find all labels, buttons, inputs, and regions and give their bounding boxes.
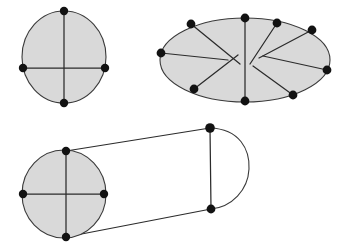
cylinder-cap-vertex-bottom [207,205,216,214]
cylinder-cap-spine [210,128,211,209]
ellipse-vertex-lower-left [190,85,199,94]
panel-ellipse-with-spokes [157,14,332,106]
cylinder-face-vertex-bottom [62,233,70,241]
circle-vertex-top [60,7,68,15]
ellipse-vertex-upper-left [187,20,196,29]
circle-vertex-bottom [60,99,68,107]
ellipse-vertex-bottom-center [241,97,250,106]
cylinder-face-vertex-right [100,190,108,198]
panel-disk-with-cross [19,7,109,107]
ellipse-vertex-upper-right-inner [273,19,282,28]
figure-root [0,0,348,251]
figure-canvas [0,0,348,251]
panel-cylinder-capsule [19,123,249,241]
cylinder-cap-arc [210,128,249,209]
cylinder-cap-vertex-top [205,123,215,133]
cylinder-face-vertex-left [19,190,27,198]
cylinder-face-vertex-top [62,147,70,155]
ellipse-vertex-left [157,49,166,58]
circle-vertex-left [19,64,27,72]
ellipse-vertex-top-center [241,14,250,23]
ellipse-vertex-right [323,66,332,75]
cylinder-ruling-top [66,128,210,151]
circle-vertex-right [101,64,109,72]
ellipse-vertex-lower-right [289,91,298,100]
ellipse-vertex-upper-right [308,26,317,35]
